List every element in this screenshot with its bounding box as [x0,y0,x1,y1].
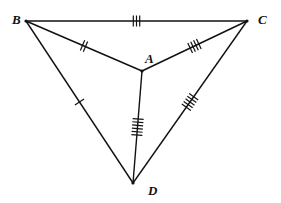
tick-mark-AD [132,122,143,123]
tick-mark-AD [132,131,143,132]
tick-mark-AD [133,119,144,120]
vertex-B [24,19,27,22]
label-D: D [148,183,157,199]
tick-mark-BD [75,99,84,105]
label-C: C [258,12,267,28]
segment-AD [133,71,142,183]
triangle-figure [0,0,281,203]
tick-mark-AD [132,125,143,126]
tick-mark-AD [131,135,142,136]
tick-mark-AD [132,128,143,129]
segment-AC [142,21,247,71]
geometry-diagram: B C A D [0,0,281,203]
label-A: A [145,51,154,67]
segment-BA [26,21,142,71]
vertex-A [140,69,143,72]
label-B: B [12,12,21,28]
vertex-C [245,19,248,22]
vertex-D [131,181,134,184]
